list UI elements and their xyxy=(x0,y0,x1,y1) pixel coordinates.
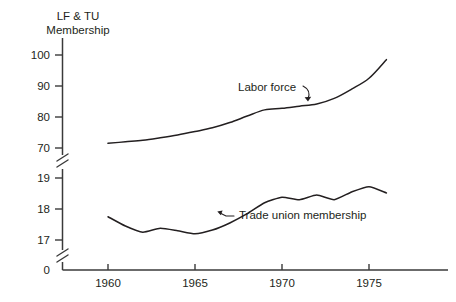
y-tick-label-0: 0 xyxy=(44,264,50,276)
x-tick-label-1970: 1970 xyxy=(269,277,295,289)
y-tick-label-70: 70 xyxy=(37,142,50,154)
y-axis-break-upper xyxy=(57,154,68,167)
labor-force-label: Labor force xyxy=(238,81,296,93)
x-tick-label-1960: 1960 xyxy=(95,277,121,289)
y-tick-label-90: 90 xyxy=(37,80,50,92)
x-tick-label-1975: 1975 xyxy=(356,277,382,289)
labor-force-annotation: Labor force xyxy=(238,81,311,102)
x-tick-label-1965: 1965 xyxy=(182,277,208,289)
y-axis xyxy=(57,38,68,270)
trade-union-label: Trade union membership xyxy=(239,209,366,221)
trade-union-annotation: Trade union membership xyxy=(217,209,366,221)
y-tick-marks xyxy=(55,55,63,240)
y-axis-break-lower xyxy=(57,249,68,262)
y-axis-title-line1: LF & TU xyxy=(57,10,100,22)
y-tick-label-100: 100 xyxy=(31,49,50,61)
line-chart: LF & TU Membership xyxy=(0,0,456,302)
labor-force-arrow-icon xyxy=(305,97,312,102)
trade-union-arrow-icon xyxy=(217,211,222,216)
y-axis-title-line2: Membership xyxy=(46,24,109,36)
y-tick-label-19: 19 xyxy=(37,172,50,184)
chart-container: LF & TU Membership xyxy=(0,0,456,302)
x-tick-marks xyxy=(108,264,369,270)
y-tick-label-17: 17 xyxy=(37,234,50,246)
y-tick-label-18: 18 xyxy=(37,203,50,215)
labor-force-line xyxy=(108,60,386,144)
y-tick-label-80: 80 xyxy=(37,111,50,123)
trade-union-leader xyxy=(220,213,234,216)
